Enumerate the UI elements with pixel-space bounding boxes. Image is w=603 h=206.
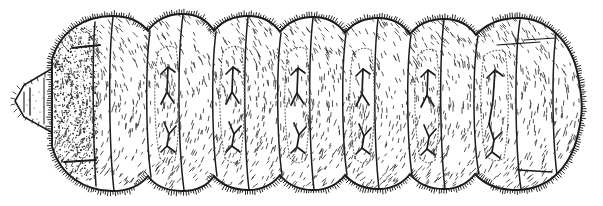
larva-illustration <box>0 0 603 206</box>
head-projection <box>11 68 53 133</box>
figure-root <box>0 0 603 206</box>
body-outline <box>52 14 582 191</box>
